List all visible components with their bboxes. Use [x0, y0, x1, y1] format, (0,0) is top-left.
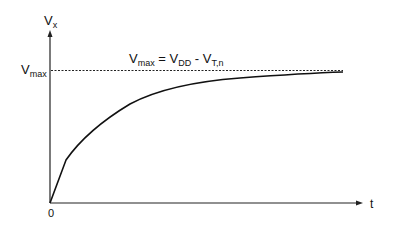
vmax-equation: Vmax = VDD - VT,n	[129, 52, 223, 68]
diagram-canvas	[0, 0, 393, 225]
vx-curve	[50, 72, 343, 203]
x-axis-label: t	[370, 198, 373, 210]
vmax-label: Vmax	[21, 63, 47, 79]
y-axis-label: Vx	[44, 14, 57, 30]
x-axis-arrow-icon	[356, 201, 363, 206]
origin-label: 0	[48, 208, 54, 219]
y-axis-arrow-icon	[48, 30, 53, 37]
